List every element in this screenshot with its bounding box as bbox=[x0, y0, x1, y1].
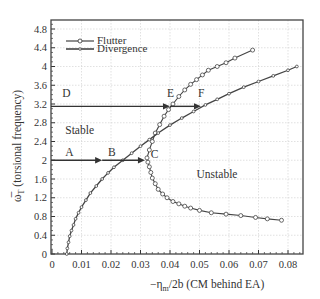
divergence-point bbox=[287, 69, 290, 72]
divergence-point bbox=[70, 229, 73, 232]
y-tick-label: 4.4 bbox=[34, 42, 48, 53]
y-tick-label: 2 bbox=[42, 155, 47, 166]
annotation-unstable: Unstable bbox=[197, 168, 238, 180]
flutter-point bbox=[165, 196, 169, 200]
divergence-point bbox=[228, 92, 231, 95]
x-tick-label: 0.05 bbox=[190, 259, 208, 270]
flutter-point bbox=[171, 200, 175, 204]
x-tick-label: 0.03 bbox=[131, 259, 149, 270]
flutter-point bbox=[200, 73, 204, 77]
flutter-point bbox=[183, 88, 187, 92]
x-tick-label: 0.07 bbox=[249, 259, 267, 270]
y-tick-label: 3.6 bbox=[34, 80, 47, 91]
flutter-point bbox=[224, 61, 228, 65]
flutter-point bbox=[162, 114, 166, 118]
divergence-point bbox=[192, 110, 195, 113]
divergence-point bbox=[67, 241, 70, 244]
arrowhead-icon bbox=[95, 157, 102, 163]
flutter-point bbox=[177, 95, 181, 99]
flutter-point bbox=[251, 48, 255, 52]
x-tick-label: 0.02 bbox=[102, 259, 120, 270]
flutter-point bbox=[146, 160, 150, 164]
flutter-point bbox=[161, 192, 165, 196]
divergence-point bbox=[113, 166, 116, 169]
divergence-point bbox=[77, 211, 80, 214]
divergence-point bbox=[257, 80, 260, 83]
annotation-a: A bbox=[65, 146, 74, 158]
divergence-point bbox=[107, 172, 110, 175]
data-series bbox=[65, 48, 298, 255]
legend-divergence: Divergence bbox=[97, 42, 148, 54]
divergence-point bbox=[216, 98, 219, 101]
divergence-point bbox=[66, 247, 69, 250]
divergence-point bbox=[89, 192, 92, 195]
flutter-point bbox=[206, 68, 210, 72]
flutter-point bbox=[233, 56, 237, 60]
flutter-marker-icon bbox=[78, 39, 82, 43]
divergence-marker-icon bbox=[79, 48, 82, 51]
divergence-point bbox=[169, 124, 172, 127]
annotation-d: D bbox=[62, 87, 70, 99]
y-tick-label: 2.8 bbox=[34, 117, 47, 128]
divergence-point bbox=[74, 217, 77, 220]
flutter-point bbox=[189, 206, 193, 210]
flutter-point bbox=[209, 211, 213, 215]
y-tick-label: 2.4 bbox=[34, 136, 48, 147]
divergence-point bbox=[101, 178, 104, 181]
x-tick-label: 0.01 bbox=[72, 259, 90, 270]
flutter-point bbox=[195, 78, 199, 82]
y-tick-label: 0.4 bbox=[34, 230, 48, 241]
flutter-point bbox=[145, 156, 149, 160]
flutter-line bbox=[147, 50, 282, 220]
flutter-point bbox=[156, 187, 160, 191]
divergence-point bbox=[68, 235, 71, 238]
divergence-point bbox=[80, 206, 83, 209]
flutter-point bbox=[280, 218, 284, 222]
legend: Flutter Divergence bbox=[66, 34, 148, 54]
y-tick-label: 1.2 bbox=[34, 192, 47, 203]
flutter-point bbox=[177, 202, 181, 206]
x-tick-label: 0.06 bbox=[220, 259, 238, 270]
y-axis-label: ω̅T (torsional frequency) bbox=[11, 90, 26, 202]
flutter-point bbox=[153, 182, 157, 186]
flutter-point bbox=[171, 102, 175, 106]
divergence-point bbox=[295, 65, 298, 68]
y-tick-label: 0 bbox=[42, 249, 47, 260]
divergence-point bbox=[130, 152, 133, 155]
y-tick-label: 3.2 bbox=[34, 99, 47, 110]
flutter-point bbox=[239, 214, 243, 218]
flutter-point bbox=[183, 204, 187, 208]
x-tick-label: 0.08 bbox=[279, 259, 297, 270]
annotation-e: E bbox=[167, 87, 174, 99]
flutter-point bbox=[198, 208, 202, 212]
divergence-point bbox=[204, 104, 207, 107]
x-tick-label: 0 bbox=[49, 259, 54, 270]
annotation-stable: Stable bbox=[65, 124, 94, 136]
flutter-point bbox=[215, 65, 219, 69]
flutter-point bbox=[254, 215, 258, 219]
flutter-divergence-chart: 00.010.020.030.040.050.060.070.0800.40.8… bbox=[0, 0, 320, 299]
flutter-point bbox=[167, 108, 171, 112]
divergence-point bbox=[148, 138, 151, 141]
divergence-point bbox=[180, 117, 183, 120]
divergence-point bbox=[157, 132, 160, 135]
divergence-point bbox=[242, 86, 245, 89]
divergence-point bbox=[95, 185, 98, 188]
axes: 00.010.020.030.040.050.060.070.0800.40.8… bbox=[34, 20, 303, 270]
annotation-f: F bbox=[198, 87, 204, 99]
flutter-point bbox=[147, 165, 151, 169]
flutter-point bbox=[149, 170, 153, 174]
arrowhead-icon bbox=[138, 157, 145, 163]
divergence-point bbox=[139, 145, 142, 148]
flutter-point bbox=[189, 82, 193, 86]
x-axis-label: −ηm/2b (CM behind EA) bbox=[150, 278, 264, 293]
y-tick-label: 0.8 bbox=[34, 211, 47, 222]
divergence-point bbox=[85, 199, 88, 202]
svg-text:ω̅T (torsional frequency): ω̅T (torsional frequency) bbox=[11, 90, 26, 202]
flutter-point bbox=[224, 212, 228, 216]
flutter-point bbox=[158, 123, 162, 127]
y-tick-label: 1.6 bbox=[34, 174, 47, 185]
flutter-point bbox=[265, 217, 269, 221]
divergence-point bbox=[72, 224, 75, 227]
flutter-point bbox=[150, 176, 154, 180]
